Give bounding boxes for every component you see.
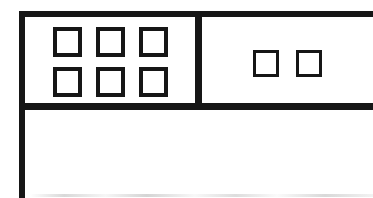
toolbar-left-section [25,17,202,103]
square-button-placeholder[interactable] [96,67,125,97]
square-button-placeholder[interactable] [96,27,125,57]
square-button-placeholder[interactable] [296,50,322,77]
right-button-row [253,50,322,77]
toolbar [25,17,373,110]
scan-artifact [30,194,373,197]
square-button-placeholder[interactable] [139,27,168,57]
toolbar-right-section [202,17,373,103]
left-button-grid [53,27,168,97]
square-button-placeholder[interactable] [253,50,279,77]
square-button-placeholder[interactable] [139,67,168,97]
square-button-placeholder[interactable] [53,27,82,57]
wireframe-figure [0,0,373,198]
square-button-placeholder[interactable] [53,67,82,97]
